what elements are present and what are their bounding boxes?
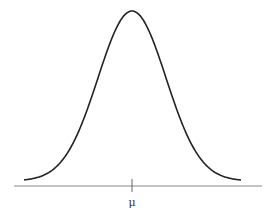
bell-curve-chart: μ bbox=[0, 0, 274, 215]
chart-svg bbox=[0, 0, 274, 215]
mean-label: μ bbox=[126, 196, 138, 209]
normal-curve bbox=[24, 11, 241, 180]
